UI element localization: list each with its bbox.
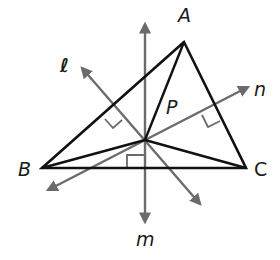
vertex-label-b: B	[18, 160, 31, 179]
segment-pc	[145, 140, 246, 168]
vertex-label-a: A	[178, 6, 191, 25]
diagram-canvas	[0, 0, 280, 260]
line-label-m: m	[136, 230, 155, 249]
line-label-n: n	[254, 80, 266, 99]
line-label-l: ℓ	[60, 56, 69, 75]
segment-pa	[145, 42, 184, 140]
point-label-p: P	[166, 98, 177, 117]
vertex-label-c: C	[254, 160, 267, 179]
line-n	[48, 87, 248, 190]
right-angle-mark-ac	[202, 115, 220, 127]
right-angle-mark-bc	[127, 155, 145, 168]
right-angle-mark-ab	[105, 119, 122, 128]
line-l	[82, 68, 200, 204]
